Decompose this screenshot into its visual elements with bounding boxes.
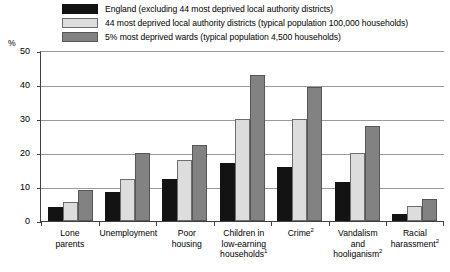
x-axis-tick	[386, 222, 387, 226]
ytick-label-30: 30	[4, 114, 30, 124]
bar	[350, 153, 365, 221]
bar-group	[329, 51, 386, 221]
bar	[63, 202, 78, 221]
x-axis-label: Unemployment	[98, 228, 158, 260]
chart-plot-area: 50 40 30 20 10 0 LoneparentsUnemployment…	[0, 0, 450, 272]
bar-groups	[41, 51, 443, 221]
ytick-mark-40	[37, 86, 41, 87]
ytick-mark-10	[37, 188, 41, 189]
ytick-mark-0	[37, 222, 41, 223]
x-axis-label: Children inlow-earninghouseholds1	[215, 228, 272, 260]
bar	[120, 179, 135, 222]
bar	[220, 163, 235, 221]
bar	[277, 167, 292, 221]
bar-group	[214, 51, 271, 221]
bar-group	[386, 51, 443, 221]
ytick-label-20: 20	[4, 148, 30, 158]
bar	[162, 179, 177, 222]
bar-group	[99, 51, 156, 221]
x-axis-label: Poorhousing	[158, 228, 215, 260]
bar-group	[271, 51, 328, 221]
x-axis-label: Loneparents	[41, 228, 98, 260]
ytick-label-10: 10	[4, 182, 30, 192]
x-axis-tick	[329, 222, 330, 226]
bar-group	[156, 51, 213, 221]
bar	[407, 206, 422, 221]
bar	[78, 190, 93, 221]
bar	[292, 119, 307, 221]
bar	[335, 182, 350, 221]
bar	[307, 87, 322, 221]
bar	[235, 119, 250, 221]
x-axis-labels: LoneparentsUnemploymentPoorhousingChildr…	[41, 228, 443, 260]
bar	[177, 160, 192, 221]
ytick-mark-30	[37, 120, 41, 121]
ytick-label-40: 40	[4, 80, 30, 90]
bar	[105, 192, 120, 221]
x-axis-label: Racialharassment2	[386, 228, 443, 260]
x-axis-tick	[443, 222, 444, 226]
x-axis-label: Crime2	[272, 228, 329, 260]
x-axis-tick	[156, 222, 157, 226]
x-axis-tick	[99, 222, 100, 226]
x-axis-tick	[214, 222, 215, 226]
x-axis-tick	[41, 222, 42, 226]
x-axis-tick	[271, 222, 272, 226]
bar	[250, 75, 265, 221]
ytick-label-50: 50	[4, 46, 30, 56]
x-axis-label: Vandalismandhooliganism2	[329, 228, 386, 260]
bar	[392, 214, 407, 221]
bar	[422, 199, 437, 221]
bar	[192, 145, 207, 222]
bar-group	[41, 51, 98, 221]
ytick-mark-20	[37, 154, 41, 155]
ytick-label-0: 0	[4, 216, 30, 226]
bar	[135, 153, 150, 221]
ytick-mark-50	[37, 52, 41, 53]
bar	[365, 126, 380, 221]
bar	[48, 207, 63, 221]
